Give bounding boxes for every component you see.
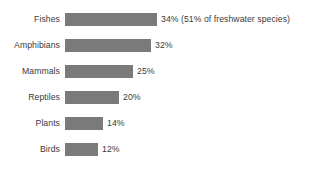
chart-row: Fishes 34% (51% of freshwater species) — [0, 12, 318, 26]
horizontal-bar-chart: Fishes 34% (51% of freshwater species) A… — [0, 0, 318, 174]
bar-fill — [65, 65, 133, 78]
bar-category-label: Birds — [0, 142, 60, 156]
chart-row: Mammals 25% — [0, 64, 318, 78]
bar-category-label: Amphibians — [0, 38, 60, 52]
bar-category-label: Fishes — [0, 12, 60, 26]
bar-fill — [65, 143, 98, 156]
bar-value-label: 32% — [155, 38, 173, 52]
bar-fill — [65, 13, 157, 26]
chart-row: Amphibians 32% — [0, 38, 318, 52]
bar-value-label: 20% — [123, 90, 141, 104]
bar-fill — [65, 91, 119, 104]
chart-row: Plants 14% — [0, 116, 318, 130]
bar-fill — [65, 39, 151, 52]
chart-row: Reptiles 20% — [0, 90, 318, 104]
bar-value-label: 12% — [102, 142, 120, 156]
bar-value-label: 34% (51% of freshwater species) — [161, 12, 290, 26]
bar-category-label: Plants — [0, 116, 60, 130]
bar-category-label: Mammals — [0, 64, 60, 78]
bar-value-label: 25% — [137, 64, 155, 78]
chart-row: Birds 12% — [0, 142, 318, 156]
bar-value-label: 14% — [107, 116, 125, 130]
bar-fill — [65, 117, 103, 130]
bar-category-label: Reptiles — [0, 90, 60, 104]
